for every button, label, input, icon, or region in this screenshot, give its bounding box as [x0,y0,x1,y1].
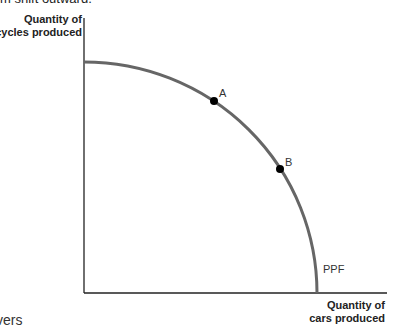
ppf-chart: A B PPF [0,0,406,335]
cut-off-footer-text: vers [0,312,22,328]
ppf-curve [84,62,317,293]
point-a-marker [210,97,218,105]
x-axis-label-line-1: Quantity of [309,299,385,312]
point-a-label: A [219,87,227,99]
x-axis-label: Quantity of cars produced [309,299,385,325]
point-b-marker [276,165,284,173]
ppf-curve-label: PPF [323,263,345,275]
point-b-label: B [285,156,292,168]
x-axis-label-line-2: cars produced [309,312,385,325]
